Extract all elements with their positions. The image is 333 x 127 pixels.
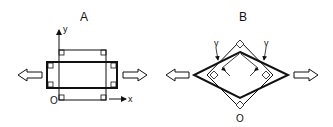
right-arrow-icon xyxy=(123,69,147,81)
right-angle-mark xyxy=(101,95,106,100)
panel-b: B γ γ O xyxy=(166,10,318,124)
right-angle-mark xyxy=(210,71,218,79)
panel-a: A y x O xyxy=(18,10,147,106)
right-angle-mark xyxy=(48,82,53,87)
gamma-leader-left xyxy=(216,48,218,60)
right-angle-mark xyxy=(236,101,244,109)
right-arrow-icon xyxy=(294,69,318,81)
panel-a-label: A xyxy=(80,10,88,24)
left-arrow-icon xyxy=(166,69,189,81)
right-angle-mark xyxy=(111,63,116,68)
y-axis-label: y xyxy=(63,24,68,34)
deformed-diamond xyxy=(194,52,288,98)
gamma-label-left: γ xyxy=(214,38,219,48)
angle-arrowhead xyxy=(254,67,259,71)
right-angle-mark xyxy=(262,71,270,79)
panel-b-label: B xyxy=(239,10,247,24)
right-angle-mark xyxy=(59,95,64,100)
origin-label-a: O xyxy=(50,95,58,106)
original-rectangle xyxy=(59,50,106,100)
right-angle-mark xyxy=(111,82,116,87)
left-arrow-icon xyxy=(18,69,42,81)
x-axis-label: x xyxy=(128,94,133,104)
right-angle-mark xyxy=(48,63,53,68)
diagram: A y x O B xyxy=(0,0,333,127)
right-angle-mark xyxy=(59,50,64,55)
gamma-label-right: γ xyxy=(264,38,269,48)
right-angle-mark xyxy=(101,50,106,55)
origin-label-b: O xyxy=(236,113,244,124)
right-angle-mark xyxy=(236,40,244,48)
gamma-leader-right xyxy=(264,48,266,60)
angle-arrowhead xyxy=(221,67,226,71)
